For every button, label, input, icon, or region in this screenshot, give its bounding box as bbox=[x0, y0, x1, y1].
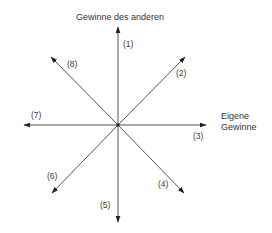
vector-label-6: (6) bbox=[47, 171, 57, 181]
vector-arrow-8 bbox=[51, 57, 118, 125]
x-axis-title-line1: Eigene bbox=[221, 111, 249, 122]
origin-point bbox=[116, 123, 119, 126]
vector-lines bbox=[24, 27, 206, 222]
vector-label-5: (5) bbox=[100, 200, 110, 210]
vector-label-7: (7) bbox=[31, 110, 41, 120]
vector-label-8: (8) bbox=[67, 59, 77, 69]
vector-arrow-4 bbox=[118, 125, 184, 193]
vector-label-4: (4) bbox=[158, 179, 168, 189]
vector-arrow-6 bbox=[52, 125, 118, 193]
vector-arrow-2 bbox=[118, 57, 185, 125]
vector-label-2: (2) bbox=[176, 68, 186, 78]
vector-label-1: (1) bbox=[123, 39, 133, 49]
y-axis-title: Gewinne des anderen bbox=[76, 12, 164, 23]
x-axis-title-line2: Gewinne bbox=[221, 122, 257, 133]
vector-label-3: (3) bbox=[193, 131, 203, 141]
